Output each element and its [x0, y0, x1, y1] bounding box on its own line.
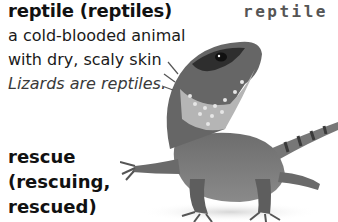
headword-line: rescue [8, 144, 128, 169]
entry-headword-rescue: rescue (rescuing, rescued) [8, 144, 128, 219]
entry-headword-reptile: reptile (reptiles) [8, 0, 172, 21]
lizard-image [120, 34, 338, 222]
headword-line: (rescuing, [8, 169, 128, 194]
image-label: reptile [243, 2, 328, 21]
headword-line: rescued) [8, 194, 128, 219]
